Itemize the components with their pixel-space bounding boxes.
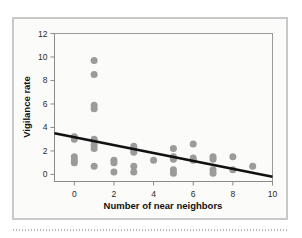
data-point <box>110 169 117 176</box>
data-point <box>190 140 197 147</box>
data-point <box>91 163 98 170</box>
x-tick-label: 8 <box>230 189 235 199</box>
data-point <box>150 157 157 164</box>
data-point <box>71 159 78 166</box>
data-point <box>130 169 137 176</box>
figure-root: 024681012 0246810 Number of near neighbo… <box>0 0 302 238</box>
data-point <box>91 71 98 78</box>
trend-line <box>55 133 273 176</box>
x-tick-label: 10 <box>268 189 278 199</box>
y-axis: 024681012 <box>38 29 54 182</box>
y-tick-label: 2 <box>43 146 48 156</box>
data-point <box>91 105 98 112</box>
y-tick-label-group: 024681012 <box>38 29 48 180</box>
data-point <box>210 170 217 177</box>
x-axis: 0246810 <box>55 182 278 199</box>
y-tick-label: 4 <box>43 122 48 132</box>
scatter-plot: 024681012 0246810 Number of near neighbo… <box>14 19 290 222</box>
x-tick-group <box>74 182 272 186</box>
x-tick-label: 0 <box>72 189 77 199</box>
bottom-dotted-rule <box>13 229 289 231</box>
data-point <box>170 170 177 177</box>
y-tick-label: 12 <box>38 29 48 39</box>
data-point <box>210 156 217 163</box>
y-tick-label: 0 <box>43 169 48 179</box>
y-tick-label: 6 <box>43 99 48 109</box>
figure-frame: 024681012 0246810 Number of near neighbo… <box>12 17 288 220</box>
x-tick-label: 6 <box>191 189 196 199</box>
x-tick-label-group: 0246810 <box>72 189 278 199</box>
x-tick-label: 2 <box>112 189 117 199</box>
data-point <box>249 163 256 170</box>
data-point <box>170 145 177 152</box>
plot-area-border <box>55 34 273 182</box>
y-axis-title: Vigilance rate <box>21 76 32 138</box>
x-tick-label: 4 <box>151 189 156 199</box>
y-tick-group <box>51 34 55 175</box>
x-axis-title: Number of near neighbors <box>104 200 223 211</box>
data-point-group <box>71 57 256 177</box>
y-tick-label: 8 <box>43 75 48 85</box>
data-point <box>91 145 98 152</box>
data-point <box>110 159 117 166</box>
data-point <box>91 57 98 64</box>
y-tick-label: 10 <box>38 52 48 62</box>
data-point <box>229 153 236 160</box>
